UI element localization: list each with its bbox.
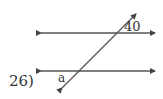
angle-label-known: 40	[124, 20, 141, 33]
angle-label-unknown: a	[58, 72, 65, 84]
problem-number: 26)	[9, 74, 34, 89]
